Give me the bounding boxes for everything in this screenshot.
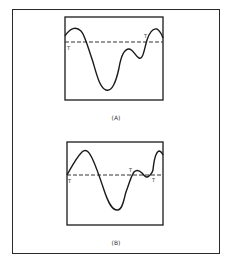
panel-a: T T	[65, 17, 163, 100]
panel-b-box	[67, 142, 163, 225]
panel-b-threshold-label: T	[67, 178, 72, 184]
panel-a-waveform	[65, 28, 163, 90]
panel-b-crossing-label: T	[151, 177, 156, 183]
panel-b: T T T	[67, 142, 163, 225]
panel-b-waveform	[67, 150, 163, 210]
panel-b-crossing-label: T	[128, 167, 133, 173]
panel-a-threshold-label: T	[66, 45, 71, 51]
panel-b-caption: (B)	[96, 239, 136, 246]
figure-svg: T T T T T	[0, 0, 233, 262]
panel-a-caption: (A)	[96, 114, 136, 121]
